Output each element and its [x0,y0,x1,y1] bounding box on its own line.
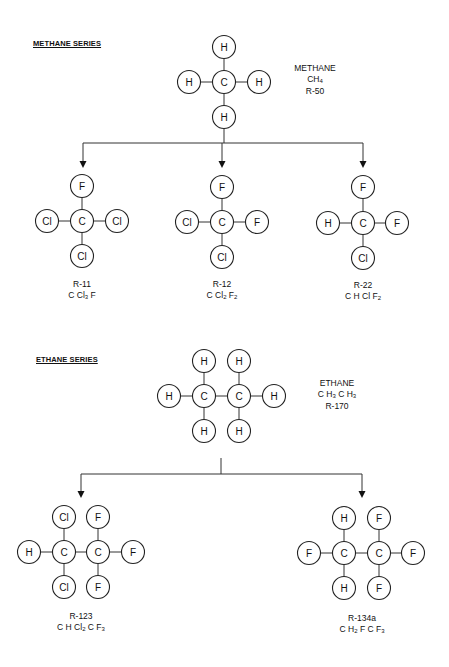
methane-branch-connector [80,129,367,168]
r123-code: R-123 [57,611,105,622]
atom-h: H [263,385,286,408]
svg-text:H: H [235,356,242,367]
atom-c: C [228,385,251,408]
svg-text:C: C [60,547,67,558]
svg-text:F: F [79,181,85,192]
atom-c: C [53,541,76,564]
methane-label: METHANE CH4 R-50 [294,63,336,97]
svg-text:F: F [410,548,416,559]
r12-code: R-12 [207,279,238,290]
svg-text:F: F [130,547,136,558]
atom-h: H [317,212,340,235]
svg-text:H: H [200,356,207,367]
svg-text:H: H [270,391,277,402]
r11-code: R-11 [68,279,95,290]
atom-h: H [333,507,356,530]
svg-text:F: F [219,182,225,193]
svg-text:Cl: Cl [59,512,68,523]
atom-f: F [87,506,110,529]
svg-text:Cl: Cl [358,253,367,264]
svg-text:H: H [324,218,331,229]
r22-code: R-22 [345,280,381,291]
atom-h: H [18,541,41,564]
arrow-down-icon [360,161,367,168]
svg-text:H: H [255,77,262,88]
atom-f: F [71,175,94,198]
atom-f: F [298,542,321,565]
atom-f: F [211,176,234,199]
atom-f: F [352,176,375,199]
svg-text:Cl: Cl [59,582,68,593]
atom-cl: Cl [36,210,59,233]
svg-text:H: H [25,547,32,558]
molecule-ethane: CCHHHHHH [158,350,286,443]
r12-formula: C Cl2 F2 [207,290,238,303]
atom-cl: Cl [352,247,375,270]
atom-c: C [333,542,356,565]
atom-f: F [246,211,269,234]
atom-h: H [248,71,271,94]
refrigerant-structure-diagram: CHHHHCFClClClCFClFClCFHFClCCHHHHHHCCClFH… [0,0,449,667]
svg-text:Cl: Cl [77,251,86,262]
r11-label: R-11 C Cl3 F [68,279,95,302]
svg-text:C: C [340,548,347,559]
r134a-label: R-134a C H2 F C F3 [340,613,385,636]
ethane-label: ETHANE C H3 C H3 R-170 [318,378,356,412]
svg-text:F: F [394,218,400,229]
r123-formula: C H Cl2 C F3 [57,622,105,635]
r134a-code: R-134a [340,613,385,624]
svg-text:H: H [220,112,227,123]
svg-text:C: C [94,547,101,558]
svg-text:C: C [359,218,366,229]
svg-text:F: F [95,582,101,593]
svg-text:H: H [235,426,242,437]
svg-text:Cl: Cl [217,252,226,263]
molecule-r22: CFHFCl [317,176,409,270]
atom-cl: Cl [106,210,129,233]
svg-text:H: H [220,42,227,53]
atom-h: H [333,577,356,600]
r134a-formula: C H2 F C F3 [340,624,385,637]
atom-h: H [193,420,216,443]
svg-text:C: C [220,77,227,88]
atom-cl: Cl [211,246,234,269]
methane-formula: CH4 [294,74,336,87]
ethane-formula: C H3 C H3 [318,389,356,402]
atom-h: H [158,385,181,408]
atom-h: H [213,106,236,129]
methane-series-title: METHANE SERIES [33,39,101,48]
atom-h: H [228,350,251,373]
atom-c: C [193,385,216,408]
atom-f: F [368,507,391,530]
molecule-r134a: CCHFFFHF [298,507,425,600]
molecule-r11: CFClClCl [36,175,129,268]
atom-f: F [386,212,409,235]
atom-c: C [71,210,94,233]
ethane-series-title: ETHANE SERIES [36,355,98,364]
atom-f: F [368,577,391,600]
svg-text:F: F [95,512,101,523]
atom-c: C [368,542,391,565]
atom-cl: Cl [53,506,76,529]
r22-formula: C H Cl F2 [345,291,381,304]
ethane-branch-connector [78,458,366,498]
atom-cl: Cl [71,245,94,268]
molecule-r123: CCClFHFClF [18,506,145,599]
atom-f: F [122,541,145,564]
ethane-name: ETHANE [318,378,356,389]
molecule-methane: CHHHH [178,36,271,129]
svg-text:H: H [340,583,347,594]
atom-h: H [193,350,216,373]
r123-label: R-123 C H Cl2 C F3 [57,611,105,634]
svg-text:F: F [376,583,382,594]
svg-text:F: F [376,513,382,524]
atom-c: C [352,212,375,235]
svg-text:F: F [306,548,312,559]
atom-f: F [87,576,110,599]
r11-formula: C Cl3 F [68,290,95,303]
svg-text:H: H [200,426,207,437]
atom-f: F [402,542,425,565]
svg-text:Cl: Cl [182,217,191,228]
svg-text:C: C [78,216,85,227]
molecule-r12: CFClFCl [176,176,269,269]
